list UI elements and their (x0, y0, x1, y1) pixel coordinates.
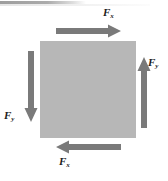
force-arrow-fx-top (56, 23, 122, 39)
force-label-fy-right: Fy (148, 57, 158, 68)
scan-artifact-line-secondary (0, 4, 150, 6)
force-subscript: y (155, 62, 158, 70)
force-label-fx-bottom: Fx (59, 156, 70, 167)
force-subscript: x (110, 12, 114, 20)
force-label-fx-top: Fx (103, 7, 114, 18)
force-arrow-fx-bottom (56, 139, 122, 155)
square-body (40, 41, 136, 138)
force-subscript: y (11, 115, 14, 123)
force-diagram-figure: Fx Fx Fy Fy (0, 0, 168, 181)
force-subscript: x (66, 161, 70, 169)
force-label-fy-left: Fy (4, 110, 14, 121)
force-arrow-fy-left (23, 51, 39, 123)
